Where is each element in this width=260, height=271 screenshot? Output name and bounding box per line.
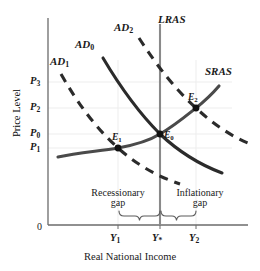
- point-label-e0: E0: [164, 131, 174, 141]
- brace-recessionary-gap: [119, 211, 160, 221]
- y-axis-title-wrapper: Price Level: [6, 81, 24, 145]
- curve-label-sras: SRAS: [205, 66, 232, 77]
- y-tick-p0: P0: [30, 128, 40, 139]
- x-tick-ystar: Y*: [152, 233, 162, 244]
- annotation-recessionary-gap: Recessionarygap: [76, 188, 160, 208]
- y-axis-title: Price Level: [11, 89, 22, 137]
- curve-label-ad1: AD1: [50, 56, 69, 69]
- brace-inflationary-gap: [161, 211, 196, 221]
- x-tick-y1: Y1: [110, 233, 120, 244]
- point-label-e1: E1: [112, 133, 122, 143]
- curve-label-lras: LRAS: [158, 14, 186, 25]
- y-tick-p2: P2: [30, 102, 40, 113]
- equilibrium-points: [115, 105, 200, 152]
- curve-label-ad0: AD0: [75, 39, 94, 52]
- y-tick-p1: P1: [30, 142, 40, 153]
- x-tick-y2: Y2: [189, 233, 199, 244]
- annotation-inflationary-gap: Inflationarygap: [163, 188, 237, 208]
- point-e1: [115, 145, 122, 152]
- curve-label-ad2: AD2: [114, 22, 133, 35]
- point-e2: [193, 105, 200, 112]
- y-tick-p3: P3: [30, 76, 40, 87]
- origin-label: 0: [37, 222, 42, 232]
- ad-as-diagram: AD1 AD0 AD2 LRAS SRAS E1 E0 E2 P3 P2 P0 …: [0, 0, 260, 271]
- curve-ad1: [61, 74, 180, 184]
- point-e0: [157, 131, 164, 138]
- x-axis-title: Real National Income: [84, 252, 176, 263]
- point-label-e2: E2: [188, 93, 198, 103]
